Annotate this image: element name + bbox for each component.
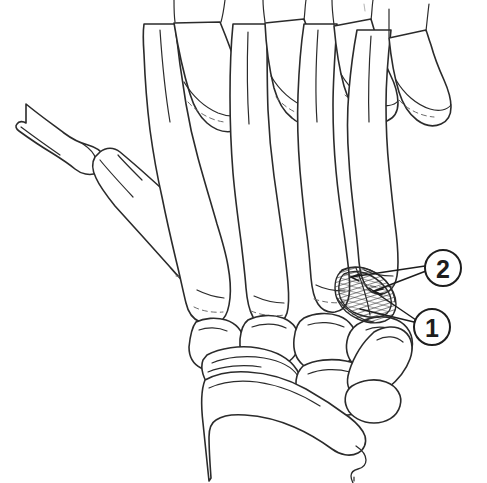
callout-2[interactable]: 2 — [425, 250, 461, 286]
callout-2-label: 2 — [436, 255, 450, 283]
anatomical-figure: Hand skeleton dorsal view line drawing B… — [0, 0, 487, 483]
callout-1-label: 1 — [425, 314, 439, 342]
hand-skeleton-drawing: Hand skeleton dorsal view line drawing B… — [0, 0, 487, 483]
callout-1[interactable]: 1 — [414, 309, 450, 345]
pisiform — [345, 380, 401, 423]
